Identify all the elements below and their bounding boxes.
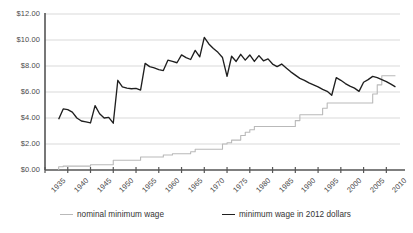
legend-item-real[interactable]: minimum wage in 2012 dollars xyxy=(222,210,351,219)
y-axis-tick-label: $10.00 xyxy=(2,35,40,44)
y-axis-tick-label: $6.00 xyxy=(2,87,40,96)
data-series-group xyxy=(59,37,396,170)
chart-legend: nominal minimum wageminimum wage in 2012… xyxy=(0,206,413,226)
gridlines xyxy=(45,14,400,144)
series-line-real xyxy=(59,37,396,123)
y-axis-tick-label: $2.00 xyxy=(2,139,40,148)
legend-label: minimum wage in 2012 dollars xyxy=(239,210,351,219)
legend-line-swatch xyxy=(222,214,235,215)
y-axis-tick-label: $12.00 xyxy=(2,9,40,18)
legend-label: nominal minimum wage xyxy=(77,210,164,219)
y-axis-tick-label: $8.00 xyxy=(2,61,40,70)
minimum-wage-chart: $0.00$2.00$4.00$6.00$8.00$10.00$12.00 19… xyxy=(0,0,413,233)
legend-line-swatch xyxy=(60,214,73,215)
series-line-nominal xyxy=(59,76,396,170)
chart-plot-area xyxy=(0,0,413,233)
y-axis-tick-label: $4.00 xyxy=(2,113,40,122)
legend-item-nominal[interactable]: nominal minimum wage xyxy=(60,210,164,219)
y-axis-tick-label: $0.00 xyxy=(2,165,40,174)
axis-lines xyxy=(45,13,405,170)
